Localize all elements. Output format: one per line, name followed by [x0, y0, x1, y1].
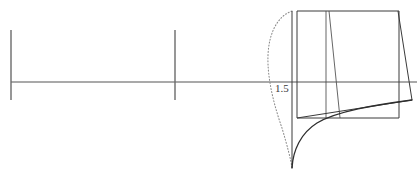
- right-slanted-edge: [398, 11, 412, 100]
- diagram-svg: [0, 0, 417, 174]
- axis-value-label: 1.5: [275, 83, 289, 94]
- inner-slanted-divider: [329, 11, 340, 118]
- solid-decay-curve: [292, 100, 412, 168]
- figure-canvas: 1.5: [0, 0, 417, 174]
- rectangle-outline: [297, 11, 399, 118]
